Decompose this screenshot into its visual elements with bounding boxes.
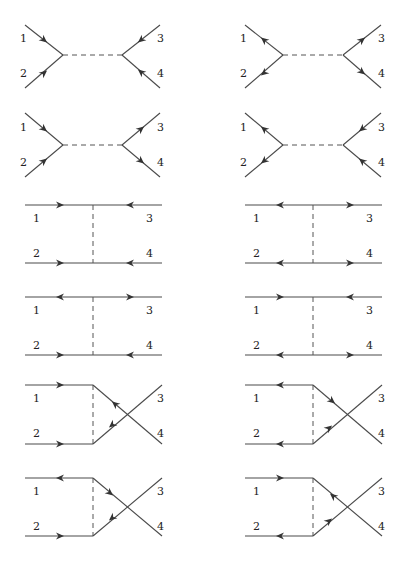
particle-label: 1	[253, 392, 260, 405]
particle-label: 3	[366, 212, 373, 225]
diagram-t-left-2: 1324	[25, 293, 162, 358]
particle-label: 4	[366, 339, 373, 352]
diagram-u-right-1: 1324	[245, 381, 385, 447]
particle-label: 1	[33, 485, 40, 498]
particle-label: 3	[378, 485, 385, 498]
diagram-s-right-2: 1234	[240, 113, 385, 177]
particle-label: 1	[20, 121, 27, 134]
particle-label: 2	[240, 156, 247, 169]
particle-label: 2	[33, 247, 40, 260]
diagram-s-right-1: 1234	[240, 25, 385, 88]
particle-label: 4	[157, 427, 164, 440]
particle-label: 3	[157, 32, 164, 45]
particle-label: 2	[20, 156, 27, 169]
particle-label: 1	[33, 212, 40, 225]
arrow-icon	[261, 68, 269, 76]
arrow-icon	[357, 37, 365, 45]
particle-label: 3	[366, 304, 373, 317]
particle-label: 4	[366, 247, 373, 260]
particle-label: 2	[20, 67, 27, 80]
diagram-u-left-1: 1324	[25, 381, 164, 447]
particle-label: 4	[378, 427, 385, 440]
diagram-u-right-2: 1324	[245, 474, 385, 539]
particle-label: 2	[33, 427, 40, 440]
particle-label: 3	[157, 121, 164, 134]
particle-label: 1	[240, 32, 247, 45]
arrow-icon	[324, 518, 332, 526]
particle-label: 3	[146, 212, 153, 225]
particle-label: 2	[253, 520, 260, 533]
diagram-t-right-1: 1324	[245, 201, 382, 266]
arrow-icon	[327, 396, 335, 404]
diagram-s-left-2: 1234	[20, 113, 164, 177]
arrow-icon	[112, 401, 120, 409]
particle-label: 1	[33, 392, 40, 405]
particle-label: 4	[146, 339, 153, 352]
particle-label: 4	[378, 67, 385, 80]
particle-label: 2	[253, 339, 260, 352]
particle-label: 2	[253, 247, 260, 260]
arrow-icon	[138, 69, 146, 77]
particle-label: 1	[240, 121, 247, 134]
particle-label: 1	[253, 212, 260, 225]
diagram-u-left-2: 1324	[25, 474, 164, 539]
diagram-s-left-1: 1234	[20, 25, 164, 88]
particle-label: 1	[253, 304, 260, 317]
particle-label: 2	[253, 427, 260, 440]
arrow-icon	[138, 35, 146, 43]
particle-label: 4	[378, 520, 385, 533]
particle-label: 1	[33, 304, 40, 317]
particle-label: 4	[157, 520, 164, 533]
particle-label: 4	[157, 67, 164, 80]
diagram-t-right-2: 1324	[245, 293, 382, 358]
particle-label: 2	[240, 67, 247, 80]
particle-label: 3	[378, 121, 385, 134]
arrow-icon	[330, 493, 338, 501]
particle-label: 3	[157, 392, 164, 405]
particle-label: 1	[253, 485, 260, 498]
particle-label: 2	[33, 339, 40, 352]
particle-label: 1	[20, 32, 27, 45]
particle-label: 3	[157, 485, 164, 498]
diagram-t-left-1: 1324	[25, 201, 162, 266]
feynman-diagram-figure: 1234123412341234132413241324132413241324…	[0, 0, 403, 564]
particle-label: 3	[378, 32, 385, 45]
particle-label: 4	[157, 156, 164, 169]
arrow-icon	[261, 37, 269, 45]
particle-label: 2	[33, 520, 40, 533]
arrow-icon	[39, 35, 47, 43]
particle-label: 4	[378, 156, 385, 169]
particle-label: 3	[378, 392, 385, 405]
particle-label: 4	[146, 247, 153, 260]
particle-label: 3	[146, 304, 153, 317]
